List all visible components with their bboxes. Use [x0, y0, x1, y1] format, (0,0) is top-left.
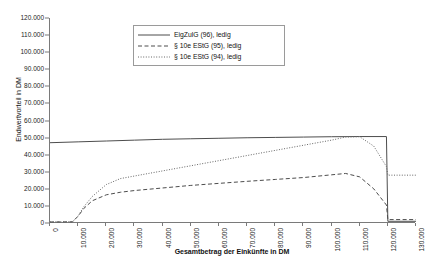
y-tick-label: 40.000	[24, 152, 44, 158]
x-tick-mark	[302, 223, 303, 226]
x-tick-mark	[218, 223, 219, 226]
y-tick-label: 0	[40, 220, 44, 226]
x-tick-label: 90.000	[305, 228, 312, 248]
legend-item: § 10e EStG (95), ledig	[137, 40, 280, 51]
x-tick-label: 10.000	[80, 228, 87, 248]
x-tick-mark	[387, 223, 388, 226]
x-tick-mark	[190, 223, 191, 226]
legend-label: EigZulG (96), ledig	[171, 31, 231, 38]
series-line	[50, 137, 416, 222]
y-tick-label: 120.000	[21, 15, 45, 21]
x-tick-mark	[105, 223, 106, 226]
x-tick-label: 30.000	[136, 228, 143, 248]
x-tick-mark	[359, 223, 360, 226]
x-axis-title: Gesamtbetrag der Einkünfte in DM	[49, 248, 415, 255]
x-tick-mark	[77, 223, 78, 226]
x-tick-mark	[331, 223, 332, 226]
x-tick-label: 50.000	[193, 228, 200, 248]
x-tick-mark	[246, 223, 247, 226]
x-tick-mark	[49, 223, 50, 226]
legend-item: § 10e EStG (94), ledig	[137, 51, 280, 62]
legend-swatch-solid-icon	[137, 31, 171, 39]
x-tick-label: 60.000	[221, 228, 228, 248]
x-tick-mark	[274, 223, 275, 226]
y-tick-label: 50.000	[24, 135, 44, 141]
x-tick-mark	[415, 223, 416, 226]
x-tick-mark	[162, 223, 163, 226]
series-line	[50, 173, 416, 222]
y-tick-label: 70.000	[24, 100, 44, 106]
y-axis: 010.00020.00030.00040.00050.00060.00070.…	[0, 18, 49, 223]
series-line	[50, 137, 416, 222]
x-tick-label: 130.000	[418, 228, 425, 252]
y-tick-label: 20.000	[24, 186, 44, 192]
y-tick-label: 60.000	[24, 118, 44, 124]
legend-item: EigZulG (96), ledig	[137, 29, 280, 40]
x-tick-label: 70.000	[249, 228, 256, 248]
y-tick-label: 100.000	[21, 49, 45, 55]
y-tick-label: 30.000	[24, 169, 44, 175]
legend-swatch-dotted-icon	[137, 53, 171, 61]
y-tick-label: 90.000	[24, 66, 44, 72]
x-tick-label: 20.000	[108, 228, 115, 248]
y-tick-label: 10.000	[24, 203, 44, 209]
x-axis: 010.00020.00030.00040.00050.00060.00070.…	[49, 223, 415, 263]
y-axis-title: Endwertvorteil in DM	[15, 45, 22, 175]
x-tick-label: 0	[52, 228, 59, 232]
y-tick-label: 80.000	[24, 83, 44, 89]
chart-legend: EigZulG (96), ledig § 10e EStG (95), led…	[133, 25, 285, 66]
x-tick-label: 40.000	[165, 228, 172, 248]
legend-label: § 10e EStG (94), ledig	[171, 53, 241, 60]
y-tick-label: 110.000	[21, 32, 44, 38]
chart-container: 010.00020.00030.00040.00050.00060.00070.…	[0, 0, 427, 263]
x-tick-label: 80.000	[277, 228, 284, 248]
x-tick-mark	[133, 223, 134, 226]
legend-label: § 10e EStG (95), ledig	[171, 42, 241, 49]
legend-swatch-dashed-icon	[137, 42, 171, 50]
